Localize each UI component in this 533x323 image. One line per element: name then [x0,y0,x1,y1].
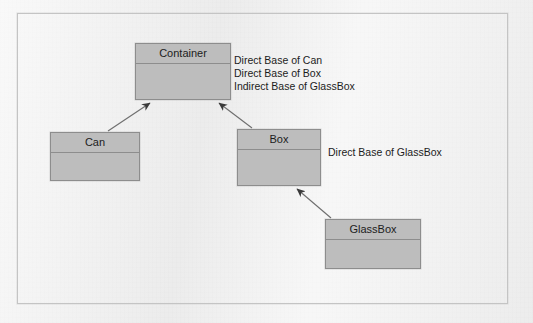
class-body-box [238,150,320,185]
diagram-canvas: Container Can Box GlassBox Direct Base o… [0,0,533,323]
annotation-line: Direct Base of Can [234,54,355,67]
class-name-glassbox: GlassBox [326,220,420,240]
annotation-container-roles: Direct Base of Can Direct Base of Box In… [234,54,355,93]
annotation-line: Indirect Base of GlassBox [234,80,355,93]
class-box-box[interactable]: Box [237,129,321,186]
annotation-box-roles: Direct Base of GlassBox [328,146,442,159]
class-body-glassbox [326,240,420,268]
annotation-line: Direct Base of Box [234,67,355,80]
class-box-container[interactable]: Container [135,43,231,100]
class-box-can[interactable]: Can [50,132,140,181]
annotation-line: Direct Base of GlassBox [328,146,442,159]
class-body-can [51,153,139,180]
class-name-can: Can [51,133,139,153]
class-name-box: Box [238,130,320,150]
class-name-container: Container [136,44,230,64]
class-box-glassbox[interactable]: GlassBox [325,219,421,269]
class-body-container [136,64,230,99]
